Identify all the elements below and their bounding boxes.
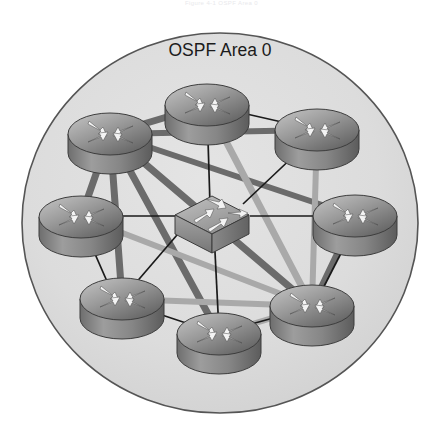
topology-canvas: OSPF Area 0 — [0, 0, 443, 431]
ospf-area-label: OSPF Area 0 — [168, 40, 271, 60]
router-left[interactable] — [39, 196, 123, 257]
router-bottom-left[interactable] — [80, 278, 164, 339]
router-bottom-right[interactable] — [270, 285, 354, 346]
router-right[interactable] — [313, 195, 397, 256]
router-top-left[interactable] — [68, 113, 152, 174]
router-top[interactable] — [165, 84, 249, 145]
router-bottom[interactable] — [177, 313, 261, 374]
router-top-right[interactable] — [275, 109, 359, 170]
network-topology-diagram: OSPF Area 0 — [0, 0, 443, 431]
